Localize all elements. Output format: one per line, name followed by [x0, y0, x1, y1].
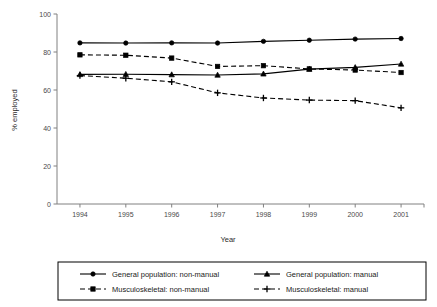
x-tick-label: 1996 — [164, 211, 180, 218]
legend-label: Musculoskeletal: manual — [286, 285, 368, 294]
data-point-square-marker — [124, 53, 128, 57]
data-point-square-marker — [215, 64, 219, 68]
data-point-circle-marker — [261, 39, 265, 43]
data-point-square-marker — [91, 287, 95, 291]
data-point-square-marker — [261, 63, 265, 67]
legend-label: Musculoskeletal: non-manual — [112, 285, 209, 294]
y-tick-label: 60 — [43, 87, 51, 94]
data-point-circle-marker — [91, 272, 95, 276]
y-tick-label: 100 — [39, 11, 51, 18]
x-tick-label: 2000 — [347, 211, 363, 218]
x-tick-label: 1995 — [118, 211, 134, 218]
y-tick-label: 80 — [43, 49, 51, 56]
y-axis-title: % employed — [10, 89, 19, 130]
x-tick-label: 1999 — [302, 211, 318, 218]
x-tick-label: 2001 — [393, 211, 409, 218]
data-point-square-marker — [169, 56, 173, 60]
data-point-circle-marker — [78, 41, 82, 45]
data-point-square-marker — [399, 70, 403, 74]
data-point-circle-marker — [307, 38, 311, 42]
x-tick-label: 1998 — [256, 211, 272, 218]
chart-background — [0, 0, 437, 307]
data-point-circle-marker — [215, 41, 219, 45]
y-tick-label: 20 — [43, 163, 51, 170]
x-tick-label: 1997 — [210, 211, 226, 218]
data-point-square-marker — [78, 53, 82, 57]
x-axis-title: Year — [220, 235, 236, 244]
data-point-circle-marker — [353, 37, 357, 41]
data-point-circle-marker — [399, 36, 403, 40]
x-tick-label: 1994 — [72, 211, 88, 218]
employment-line-chart: 020406080100 199419951996199719981999200… — [0, 0, 437, 307]
data-point-circle-marker — [124, 41, 128, 45]
legend-label: General population: non-manual — [112, 270, 219, 279]
data-point-square-marker — [353, 68, 357, 72]
data-point-circle-marker — [169, 41, 173, 45]
chart-container: 020406080100 199419951996199719981999200… — [0, 0, 437, 307]
legend-label: General population: manual — [286, 270, 378, 279]
data-point-square-marker — [307, 67, 311, 71]
y-tick-label: 0 — [47, 201, 51, 208]
y-tick-label: 40 — [43, 125, 51, 132]
